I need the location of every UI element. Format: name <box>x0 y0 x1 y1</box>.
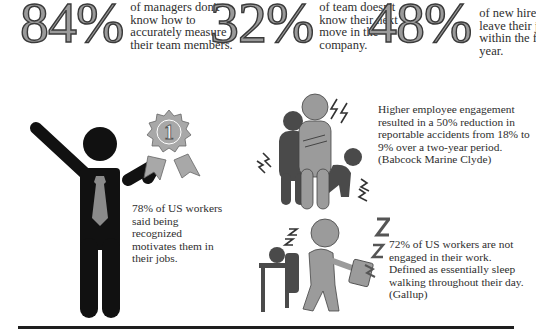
stat-value: 84% <box>20 0 123 48</box>
stat-value: 48% <box>368 0 471 48</box>
frustrated-coworkers-icon <box>255 93 375 211</box>
ribbon-number: 1 <box>164 121 174 143</box>
disengagement-text: 72% of US workers are not engaged in the… <box>389 238 529 301</box>
engagement-text: Higher employee engagement resulted in a… <box>378 103 536 166</box>
stat-new-hires: 48% of new hires leave their job within … <box>368 0 536 57</box>
stat-description: of new hires leave their job within the … <box>479 7 536 57</box>
stat-value: 32% <box>210 0 313 48</box>
recognition-text: 78% of US workers said being recognized … <box>132 202 227 265</box>
bottom-divider <box>18 326 514 329</box>
sleepwalking-worker-icon <box>255 215 390 313</box>
